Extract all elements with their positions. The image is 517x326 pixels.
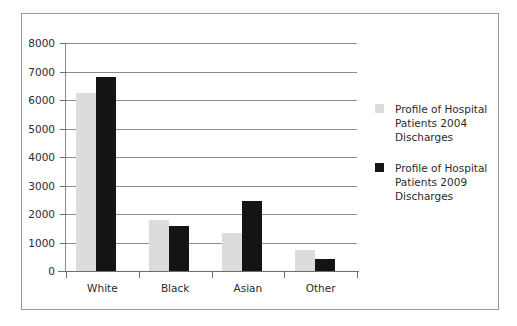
x-axis-tick	[139, 272, 140, 278]
y-axis-tick	[60, 157, 67, 158]
x-axis-label-asian: Asian	[234, 283, 263, 294]
y-axis-tick-label: 1000	[28, 237, 55, 248]
y-axis-tick-label: 3000	[28, 180, 55, 191]
y-axis-tick	[60, 129, 67, 130]
y-axis-tick-label: 4000	[28, 152, 55, 163]
x-axis-tick	[66, 272, 67, 278]
y-axis-tick	[60, 100, 67, 101]
legend-label: Profile of Hospital Patients 2009 Discha…	[395, 161, 495, 203]
bar-other-2009	[315, 259, 335, 271]
x-axis-tick	[284, 272, 285, 278]
legend-label: Profile of Hospital Patients 2004 Discha…	[395, 102, 495, 144]
x-axis-label-black: Black	[161, 283, 189, 294]
legend-swatch-icon	[375, 104, 384, 113]
bar-white-2009	[96, 77, 116, 271]
plot-area: 010002000300040005000600070008000 WhiteB…	[66, 43, 357, 271]
x-axis-tick	[357, 272, 358, 278]
y-axis-tick-label: 2000	[28, 209, 55, 220]
y-axis-tick-label: 0	[48, 266, 55, 277]
bar-other-2004	[295, 250, 315, 271]
bar-black-2004	[149, 220, 169, 271]
y-axis-tick	[60, 214, 67, 215]
y-axis-tick-label: 5000	[28, 123, 55, 134]
y-axis-tick-label: 7000	[28, 66, 55, 77]
x-axis-label-other: Other	[306, 283, 336, 294]
y-axis-tick-label: 6000	[28, 95, 55, 106]
chart-figure: 010002000300040005000600070008000 WhiteB…	[21, 13, 499, 310]
bar-black-2009	[169, 226, 189, 271]
bar-asian-2004	[222, 233, 242, 271]
gridline	[66, 72, 357, 73]
legend-entry-2009: Profile of Hospital Patients 2009 Discha…	[375, 161, 495, 203]
x-axis-tick	[212, 272, 213, 278]
x-axis-line	[58, 271, 359, 272]
y-axis-tick	[60, 43, 67, 44]
legend-swatch-icon	[375, 163, 384, 172]
chart-legend: Profile of Hospital Patients 2004 Discha…	[375, 102, 495, 220]
y-axis-tick-label: 8000	[28, 38, 55, 49]
y-axis-tick	[60, 186, 67, 187]
y-axis-tick	[60, 72, 67, 73]
y-axis-tick	[60, 243, 67, 244]
gridline	[66, 43, 357, 44]
legend-entry-2004: Profile of Hospital Patients 2004 Discha…	[375, 102, 495, 144]
x-axis-label-white: White	[87, 283, 118, 294]
bar-white-2004	[76, 93, 96, 271]
bar-asian-2009	[242, 201, 262, 271]
